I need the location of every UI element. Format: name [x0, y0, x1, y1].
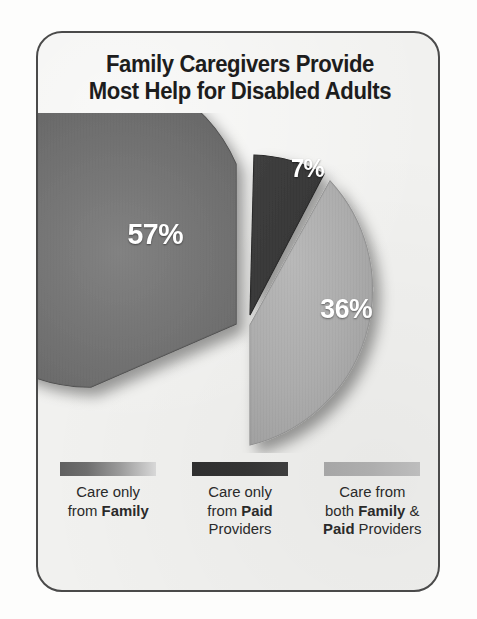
- legend-line-2-pre: both: [325, 502, 358, 519]
- legend-item-paid-only: Care only from Paid Providers: [178, 462, 302, 539]
- legend-swatch-family-only: [60, 462, 156, 476]
- legend-line-3-bold: Paid: [323, 520, 354, 537]
- legend-line-2-pre: from: [207, 502, 241, 519]
- infographic-card: Family Caregivers Provide Most Help for …: [36, 31, 440, 592]
- page-background: Family Caregivers Provide Most Help for …: [0, 0, 477, 619]
- legend-label-both: Care from both Family & Paid Providers: [323, 483, 421, 539]
- chart-legend: Care only from Family Care only from Pai…: [38, 462, 440, 574]
- legend-label-paid-only: Care only from Paid Providers: [207, 483, 272, 539]
- legend-line-1: Care only: [67, 483, 148, 502]
- pie-chart-svg: [38, 113, 440, 453]
- legend-line-2-post: &: [405, 502, 419, 519]
- legend-line-2: from Family: [67, 502, 148, 521]
- legend-label-family-only: Care only from Family: [67, 483, 148, 520]
- legend-item-family-only: Care only from Family: [46, 462, 170, 520]
- legend-line-3: Providers: [207, 520, 272, 539]
- legend-swatch-both: [324, 462, 420, 476]
- legend-line-2-bold: Paid: [241, 502, 272, 519]
- title-line-1: Family Caregivers Provide: [50, 51, 430, 78]
- pie-chart: 57% 7% 36%: [38, 113, 440, 453]
- legend-line-2: from Paid: [207, 502, 272, 521]
- legend-swatch-paid-only: [192, 462, 288, 476]
- legend-line-3-post: Providers: [354, 520, 421, 537]
- legend-line-2-bold: Family: [358, 502, 405, 519]
- pie-label-both: 36%: [320, 293, 372, 325]
- legend-line-3: Paid Providers: [323, 520, 421, 539]
- legend-line-1: Care only: [207, 483, 272, 502]
- legend-line-2-pre: from: [67, 502, 101, 519]
- pie-label-paid-only: 7%: [291, 154, 324, 183]
- legend-line-2: both Family &: [323, 502, 421, 521]
- page-title: Family Caregivers Provide Most Help for …: [50, 51, 430, 105]
- legend-line-1: Care from: [323, 483, 421, 502]
- legend-item-both: Care from both Family & Paid Providers: [310, 462, 434, 539]
- legend-line-2-bold: Family: [101, 502, 148, 519]
- pie-label-family-only: 57%: [127, 217, 183, 251]
- title-line-2: Most Help for Disabled Adults: [50, 78, 430, 105]
